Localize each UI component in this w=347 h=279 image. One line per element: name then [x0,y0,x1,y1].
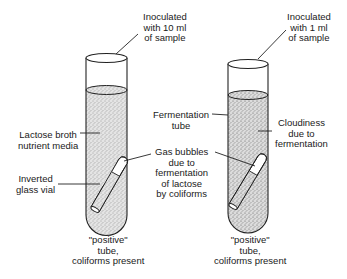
fermentation-tube-label: Fermentation tube [153,110,209,131]
left-inoculation-label: Inoculated with 10 ml of sample [143,12,187,44]
left-result-label: "positive" tube, coliforms present [72,235,144,267]
left-tube [86,54,128,236]
gas-bubbles-label: Gas bubbles due to fermentation of lacto… [155,147,208,200]
right-inoculation-label: Inoculated with 1 ml of sample [287,12,331,44]
vial-label: Inverted glass vial [16,174,55,195]
media-label: Lactose broth nutrient media [18,130,78,151]
cloudiness-label: Cloudiness due to fermentation [275,118,328,150]
right-result-label: "positive" tube, coliforms present [214,235,286,267]
right-tube [228,60,268,234]
